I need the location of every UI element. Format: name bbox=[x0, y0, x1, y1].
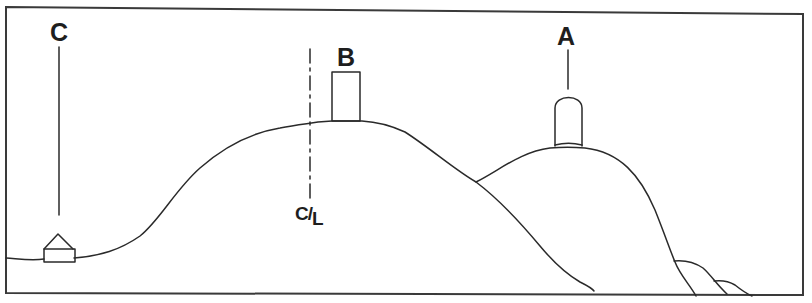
structure-b bbox=[332, 72, 360, 121]
debris-mound-2 bbox=[714, 281, 752, 296]
centerline-c: C bbox=[295, 203, 308, 224]
centerline-l: L bbox=[312, 208, 323, 229]
house-icon bbox=[44, 234, 75, 262]
label-b: B bbox=[337, 45, 355, 70]
structure-a-base bbox=[555, 144, 582, 146]
label-a: A bbox=[557, 24, 575, 49]
diagram-frame bbox=[6, 7, 803, 295]
terrain-diagram bbox=[0, 0, 812, 303]
debris-mound-1 bbox=[674, 261, 727, 294]
structure-a bbox=[555, 98, 582, 147]
label-c: C bbox=[50, 20, 68, 45]
small-hill-profile bbox=[476, 147, 696, 296]
label-centerline: C/L bbox=[295, 204, 323, 223]
